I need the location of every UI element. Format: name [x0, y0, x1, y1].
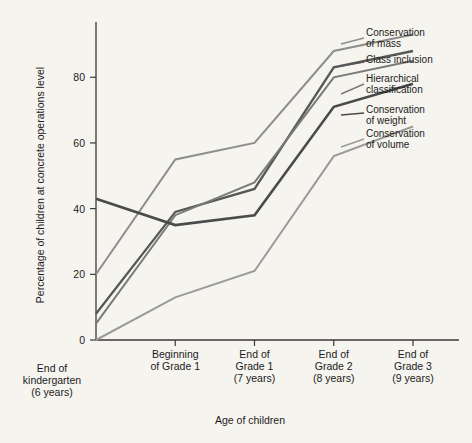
y-axis-tick-label: 80 [73, 71, 85, 83]
legend-label-4: Conservation [366, 128, 425, 139]
x-axis-category-label: Grade 2 [315, 360, 353, 372]
x-axis-category-label: End of [398, 348, 428, 360]
chart-container: 020406080 End ofkindergarten(6 years)Beg… [0, 0, 472, 443]
x-axis-category-label: (9 years) [392, 372, 433, 384]
legend-label-0: Conservation [366, 27, 425, 38]
x-axis-category-label: kindergarten [23, 374, 82, 386]
x-axis-category-label: (8 years) [313, 372, 354, 384]
y-axis-tick-label: 40 [73, 203, 85, 215]
y-axis-title: Percentage of children at concrete opera… [34, 67, 46, 303]
legend-label-3: Conservation [366, 104, 425, 115]
x-axis-category-label: End of [37, 362, 67, 374]
line-chart: 020406080 End ofkindergarten(6 years)Beg… [0, 0, 472, 443]
legend-label-3: of weight [366, 115, 406, 126]
legend-label-4: of volume [366, 139, 410, 150]
y-axis-tick-label: 60 [73, 137, 85, 149]
x-axis-category-label: of Grade 1 [150, 360, 200, 372]
x-axis-category-label: Beginning [152, 348, 199, 360]
legend-label-1: Class inclusion [366, 54, 433, 65]
legend-label-0: of mass [366, 38, 401, 49]
y-axis-tick-label: 0 [79, 334, 85, 346]
x-axis-category-label: Grade 1 [236, 360, 274, 372]
x-axis-category-label: (6 years) [31, 386, 72, 398]
y-axis-tick-label: 20 [73, 268, 85, 280]
x-axis-category-label: Grade 3 [394, 360, 432, 372]
x-axis-category-label: End of [319, 348, 349, 360]
legend-label-2: Hierarchical [366, 73, 419, 84]
x-axis-category-label: End of [239, 348, 269, 360]
x-axis-title: Age of children [215, 414, 285, 426]
x-axis-category-label: (7 years) [234, 372, 275, 384]
legend-label-2: classification [366, 84, 423, 95]
